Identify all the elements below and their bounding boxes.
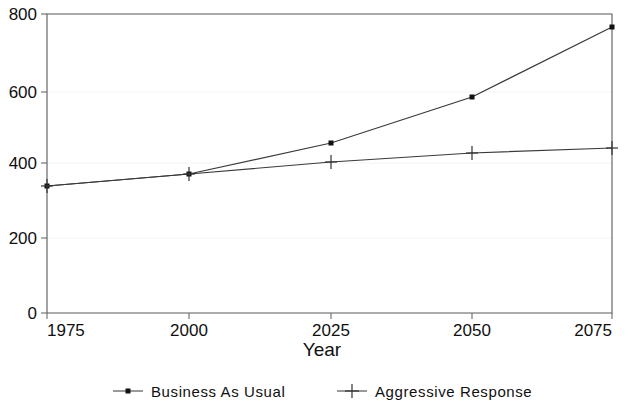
data-point-ar-2050 [466,146,478,160]
dot-icon [126,389,131,394]
gridlines [47,14,612,238]
x-axis-tick-labels: 1975 2000 2025 2050 2075 [47,321,612,340]
series-aggressive-response [41,141,618,193]
y-axis-tick-labels: 800 600 400 200 0 [9,5,37,323]
y-tick-label-800: 800 [9,5,37,24]
data-point-ar-2075 [606,141,618,155]
legend-entry-business-as-usual[interactable]: Business As Usual [113,383,285,400]
y-tick-label-0: 0 [28,304,37,323]
y-tick-label-400: 400 [9,154,37,173]
plus-icon [345,384,359,398]
legend-label-business-as-usual: Business As Usual [151,383,285,400]
data-point-bau-2050 [470,95,475,100]
chart-canvas: 800 600 400 200 0 1975 2000 2025 2050 20… [0,0,644,411]
data-point-bau-2025 [329,141,334,146]
chart-legend: Business As Usual Aggressive Response [113,383,532,400]
y-tick-label-600: 600 [9,83,37,102]
x-tick-label-2025: 2025 [312,321,350,340]
x-axis-ticks [47,313,612,319]
series-line-aggressive-response [47,148,612,186]
data-point-ar-1975 [41,179,53,193]
legend-label-aggressive-response: Aggressive Response [375,383,532,400]
data-point-ar-2025 [325,155,337,169]
x-tick-label-1975: 1975 [47,321,85,340]
data-point-ar-2000 [183,167,195,181]
x-axis-title: Year [303,339,342,360]
y-axis-ticks [41,14,47,313]
x-tick-label-2000: 2000 [170,321,208,340]
x-tick-label-2075: 2075 [574,321,612,340]
x-tick-label-2050: 2050 [453,321,491,340]
series-business-as-usual [45,25,615,189]
legend-entry-aggressive-response[interactable]: Aggressive Response [337,383,532,400]
y-tick-label-200: 200 [9,229,37,248]
line-chart: 800 600 400 200 0 1975 2000 2025 2050 20… [0,0,644,411]
data-point-bau-2075 [610,25,615,30]
